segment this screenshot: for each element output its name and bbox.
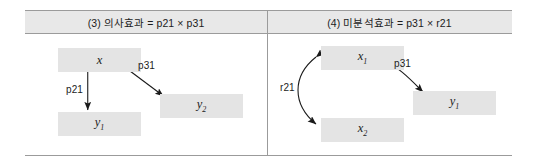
panel-header-left: (3) 의사효과 = p21 × p31 (25, 11, 268, 33)
edge-label-p31-right: p31 (394, 58, 411, 69)
node-x2-label: x2 (358, 122, 368, 138)
panel-spurious-effect: x y1 y2 p21 p31 (25, 34, 268, 156)
edge-label-p31-left: p31 (138, 60, 155, 71)
node-y2-label: y2 (197, 98, 207, 114)
node-y1: y1 (58, 112, 141, 136)
node-x1-label: x1 (358, 50, 368, 66)
figure-header-row: (3) 의사효과 = p21 × p31 (4) 미분석효과 = p31 × r… (25, 11, 512, 34)
node-y2: y2 (160, 94, 243, 118)
figure-container: (3) 의사효과 = p21 × p31 (4) 미분석효과 = p31 × r… (25, 10, 512, 156)
panel-unanalyzed-effect: x1 x2 y1 r21 p31 (268, 34, 511, 156)
figure-panels: x y1 y2 p21 p31 (25, 34, 512, 156)
arrow-x1-x2-correlation (298, 57, 316, 124)
panel-header-right: (4) 미분석효과 = p31 × r21 (268, 11, 511, 33)
node-x-label: x (97, 54, 103, 67)
edge-label-p21: p21 (66, 84, 83, 95)
node-y1-right-label: y1 (450, 95, 460, 111)
node-y1-label: y1 (95, 116, 105, 132)
node-x1: x1 (321, 46, 404, 70)
node-y1-right: y1 (413, 91, 496, 115)
node-x: x (58, 48, 141, 72)
node-x2: x2 (321, 118, 404, 142)
edge-label-r21: r21 (280, 82, 295, 93)
